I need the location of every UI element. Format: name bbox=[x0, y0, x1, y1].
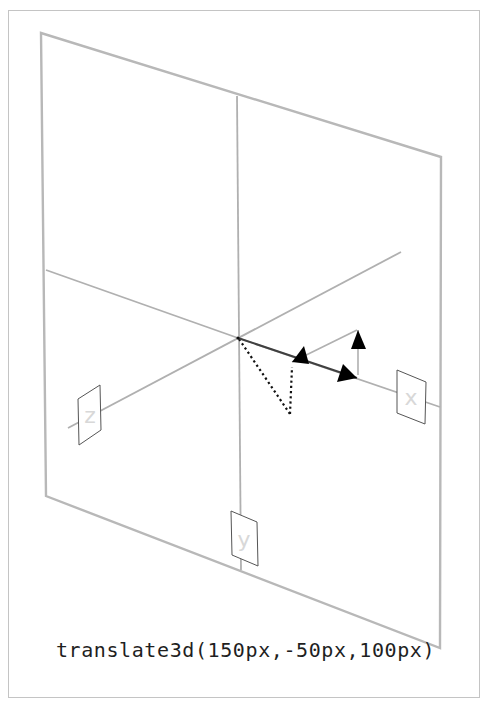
origin-point bbox=[236, 336, 239, 339]
arrowhead-icon bbox=[351, 330, 366, 349]
x-axis-label: x bbox=[404, 385, 417, 410]
translate3d-diagram: xzy bbox=[0, 0, 491, 708]
y-axis-line bbox=[237, 96, 241, 570]
z-axis-line bbox=[68, 252, 401, 428]
dotted-projection-line bbox=[290, 367, 292, 414]
axis-labels: xzy bbox=[78, 370, 426, 566]
transform-caption: translate3d(150px,-50px,100px) bbox=[0, 638, 491, 662]
horizontal-axis-left bbox=[46, 270, 238, 338]
arrowhead-icon bbox=[337, 364, 357, 382]
z-axis-label: z bbox=[84, 403, 96, 428]
y-axis-label: y bbox=[237, 527, 250, 552]
dotted-projection-line bbox=[239, 339, 290, 414]
arrowhead-icon bbox=[292, 346, 309, 364]
